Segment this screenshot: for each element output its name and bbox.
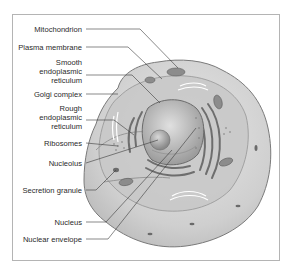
label-golgi-complex: Golgi complex: [34, 90, 82, 99]
cell-diagram: [0, 0, 292, 270]
label-ribosomes: Ribosomes: [44, 139, 82, 148]
label-rough-er: Rough endoplasmic reticulum: [39, 104, 82, 131]
label-plasma-membrane: Plasma membrane: [18, 43, 82, 52]
label-nucleolus: Nucleolus: [49, 159, 82, 168]
label-nuclear-envelope: Nuclear envelope: [23, 235, 82, 244]
nucleus-shape: [142, 100, 204, 165]
label-mitochondrion: Mitochondrion: [34, 25, 82, 34]
label-secretion-granule: Secretion granule: [22, 186, 82, 195]
label-nucleus: Nucleus: [55, 218, 82, 227]
nucleolus-shape: [150, 130, 170, 150]
label-smooth-er: Smooth endoplasmic reticulum: [39, 58, 82, 85]
